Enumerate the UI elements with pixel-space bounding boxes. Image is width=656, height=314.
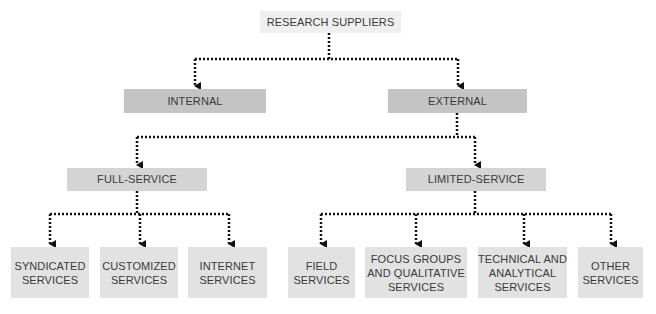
node-external: EXTERNAL	[388, 89, 527, 113]
node-internal: INTERNAL	[124, 89, 266, 113]
node-focus-groups-qualitative-services: FOCUS GROUPS AND QUALITATIVE SERVICES	[365, 247, 467, 298]
node-other-services: OTHER SERVICES	[578, 247, 643, 298]
node-full-service: FULL-SERVICE	[67, 168, 207, 191]
node-limited-service: LIMITED-SERVICE	[406, 168, 546, 191]
node-internet-services: INTERNET SERVICES	[188, 247, 267, 298]
node-technical-analytical-services: TECHNICAL AND ANALYTICAL SERVICES	[478, 247, 567, 298]
node-research-suppliers: RESEARCH SUPPLIERS	[260, 11, 401, 33]
node-customized-services: CUSTOMIZED SERVICES	[100, 247, 178, 298]
node-field-services: FIELD SERVICES	[288, 247, 355, 298]
node-syndicated-services: SYNDICATED SERVICES	[11, 247, 89, 298]
research-suppliers-diagram: RESEARCH SUPPLIERS INTERNAL EXTERNAL FUL…	[0, 0, 656, 314]
